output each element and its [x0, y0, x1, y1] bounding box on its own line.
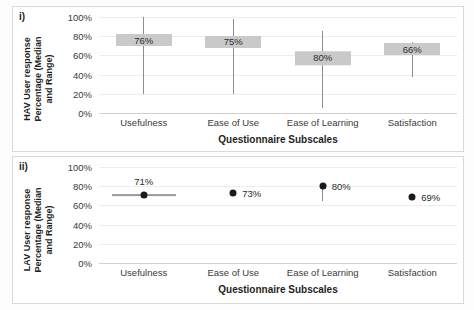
x-axis-labels-hav: UsefulnessEase of UseEase of LearningSat…	[99, 117, 457, 133]
median-label: 73%	[242, 187, 261, 198]
plot-area-lav: 71%73%80%69%	[99, 167, 457, 263]
x-axis-label: Ease of Learning	[287, 267, 359, 278]
range-whisker	[143, 17, 144, 94]
y-axis-title-line2: Percentage (Median	[33, 36, 44, 121]
y-axis-title-line3: and Range)	[44, 36, 55, 121]
x-axis-label: Satisfaction	[388, 117, 437, 128]
x-axis-label: Ease of Use	[207, 267, 259, 278]
figure-container: i) HAV User response Percentage (Median …	[0, 0, 474, 310]
median-label: 80%	[313, 53, 332, 64]
x-axis-title-hav: Questionnaire Subscales	[99, 134, 457, 145]
y-tick-label: 100%	[68, 12, 92, 23]
median-label: 71%	[134, 175, 153, 186]
y-tick-label: 40%	[73, 219, 92, 230]
box-whisker-column: 75%	[189, 17, 279, 113]
median-box: 76%	[116, 34, 172, 46]
x-axis-label: Satisfaction	[388, 267, 437, 278]
median-label: 80%	[332, 181, 351, 192]
range-whisker	[322, 31, 323, 108]
y-axis-title-line2: Percentage (Median	[33, 187, 44, 272]
median-box: 75%	[205, 36, 261, 48]
point-range-column: 69%	[368, 167, 458, 263]
y-tick-label: 100%	[68, 162, 92, 173]
plot-wrap-lav: 100%80%60%40%20%0% 71%73%80%69% Usefulne…	[59, 167, 459, 299]
x-axis-label: Usefulness	[120, 117, 167, 128]
median-point	[230, 189, 237, 196]
median-label: 69%	[421, 191, 440, 202]
median-point	[319, 183, 326, 190]
point-range-column: 80%	[278, 167, 368, 263]
x-axis-label: Ease of Learning	[287, 117, 359, 128]
y-tick-label: 80%	[73, 181, 92, 192]
x-axis-line	[99, 263, 457, 264]
box-whisker-column: 76%	[99, 17, 189, 113]
panel-lav: ii) LAV User response Percentage (Median…	[12, 156, 464, 304]
x-axis-labels-lav: UsefulnessEase of UseEase of LearningSat…	[99, 267, 457, 283]
y-axis-ticks-hav: 100%80%60%40%20%0%	[59, 17, 95, 113]
y-axis-title-hav: HAV User response Percentage (Median and…	[17, 7, 59, 151]
y-axis-title-line1: HAV User response	[22, 36, 33, 121]
x-axis-label: Usefulness	[120, 267, 167, 278]
y-tick-label: 80%	[73, 31, 92, 42]
median-label: 66%	[403, 44, 422, 55]
median-point	[140, 191, 147, 198]
panel-hav: i) HAV User response Percentage (Median …	[12, 6, 464, 152]
y-tick-label: 20%	[73, 238, 92, 249]
median-label: 75%	[224, 36, 243, 47]
median-point	[409, 193, 416, 200]
x-axis-label: Ease of Use	[207, 117, 259, 128]
y-tick-label: 20%	[73, 88, 92, 99]
median-label: 76%	[134, 35, 153, 46]
y-axis-title-lav: LAV User response Percentage (Median and…	[17, 157, 59, 303]
y-axis-ticks-lav: 100%80%60%40%20%0%	[59, 167, 95, 263]
box-whisker-column: 80%	[278, 17, 368, 113]
y-axis-title-line3: and Range)	[44, 187, 55, 272]
y-axis-title-line1: LAV User response	[22, 187, 33, 272]
plot-wrap-hav: 100%80%60%40%20%0% 76%75%80%66% Usefulne…	[59, 17, 459, 147]
point-range-column: 71%	[99, 167, 189, 263]
y-tick-label: 60%	[73, 50, 92, 61]
y-tick-label: 0%	[78, 258, 92, 269]
y-tick-label: 60%	[73, 200, 92, 211]
y-tick-label: 40%	[73, 69, 92, 80]
y-tick-label: 0%	[78, 108, 92, 119]
median-box: 80%	[295, 52, 351, 65]
box-whisker-column: 66%	[368, 17, 458, 113]
point-range-column: 73%	[189, 167, 279, 263]
x-axis-title-lav: Questionnaire Subscales	[99, 284, 457, 295]
x-axis-line	[99, 113, 457, 114]
median-box: 66%	[384, 43, 440, 55]
range-whisker	[233, 19, 234, 94]
plot-area-hav: 76%75%80%66%	[99, 17, 457, 113]
